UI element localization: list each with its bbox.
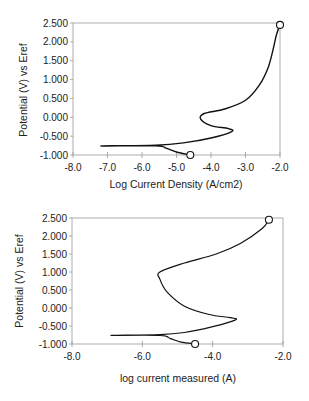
top-x-axis-label: Log Current Density (A/cm2): [109, 178, 242, 190]
top-y-axis: 2.5002.0001.5001.0000.5000.000-0.500-1.0…: [40, 18, 73, 161]
y-tick-label: 2.500: [42, 213, 67, 224]
top-markers: [187, 21, 284, 158]
bottom-chart: 2.5002.0001.5001.0000.5000.000-0.500-1.0…: [13, 213, 292, 385]
y-tick-label: -1.000: [40, 150, 69, 161]
bottom-y-axis-label: Potential (V) vs Eref: [13, 234, 25, 327]
bottom-x-axis-label: log current measured (A): [120, 372, 236, 384]
y-tick-label: 0.500: [43, 93, 68, 104]
endpoint-marker-icon: [187, 152, 194, 159]
y-tick-label: -1.000: [39, 339, 68, 350]
x-tick-label: -4.0: [204, 351, 222, 362]
figure: 2.5002.0001.5001.0000.5000.000-0.500-1.0…: [0, 0, 309, 401]
top-plot-frame: [73, 23, 280, 155]
y-tick-label: 2.000: [43, 36, 68, 47]
y-tick-label: 2.500: [43, 18, 68, 29]
x-tick-label: -6.0: [134, 351, 152, 362]
y-tick-label: 0.000: [43, 112, 68, 123]
x-tick-label: -4.0: [202, 162, 220, 173]
x-tick-label: -8.0: [63, 351, 81, 362]
x-tick-label: -3.0: [237, 162, 255, 173]
y-tick-label: 1.500: [43, 55, 68, 66]
x-tick-label: -7.0: [99, 162, 117, 173]
y-tick-label: -0.500: [40, 131, 69, 142]
y-tick-label: 1.000: [42, 267, 67, 278]
top-curve: [101, 25, 280, 155]
x-tick-label: -8.0: [64, 162, 82, 173]
top-y-axis-label: Potential (V) vs Eref: [17, 43, 29, 136]
bottom-y-axis: 2.5002.0001.5001.0000.5000.000-0.500-1.0…: [39, 213, 72, 350]
x-tick-label: -5.0: [168, 162, 186, 173]
x-tick-label: -6.0: [133, 162, 151, 173]
y-tick-label: 0.000: [42, 303, 67, 314]
bottom-markers: [192, 216, 273, 347]
endpoint-marker-icon: [192, 341, 199, 348]
y-tick-label: 1.000: [43, 74, 68, 85]
bottom-curve: [111, 220, 269, 344]
y-tick-label: -0.500: [39, 321, 68, 332]
y-tick-label: 0.500: [42, 285, 67, 296]
top-chart: 2.5002.0001.5001.0000.5000.000-0.500-1.0…: [17, 18, 289, 191]
x-tick-label: -2.0: [274, 351, 292, 362]
endpoint-marker-icon: [277, 21, 284, 28]
endpoint-marker-icon: [265, 216, 272, 223]
y-tick-label: 1.500: [42, 249, 67, 260]
x-tick-label: -2.0: [271, 162, 289, 173]
y-tick-label: 2.000: [42, 231, 67, 242]
